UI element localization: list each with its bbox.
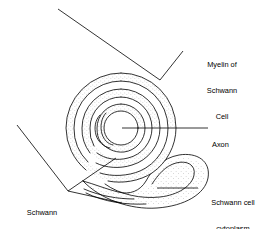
- diagram-figure: Myelin of Schwann Cell Axon Schwann cell…: [0, 0, 269, 229]
- leader-myelin-hook: [160, 51, 183, 80]
- leader-schwann-diagonal: [17, 125, 68, 191]
- label-myelin-line1: Myelin of: [186, 61, 258, 70]
- leader-myelin-long: [58, 9, 160, 80]
- label-axon-line1: Axon: [212, 141, 262, 150]
- label-cytoplasm-line1: Schwann cell: [200, 199, 266, 208]
- label-myelin-line2: Schwann: [186, 87, 258, 96]
- label-myelin-line3: Cell: [186, 113, 258, 122]
- label-cytoplasm-line2: cytoplasm: [200, 225, 266, 229]
- label-schwann-cell: Schwann Cell: [14, 192, 70, 229]
- schwann-cytoplasm-lobe: [83, 154, 208, 208]
- label-schwann-cell-cytoplasm: Schwann cell cytoplasm: [200, 182, 266, 229]
- label-schwanncell-line1: Schwann: [14, 209, 70, 218]
- label-axon: Axon: [212, 124, 262, 167]
